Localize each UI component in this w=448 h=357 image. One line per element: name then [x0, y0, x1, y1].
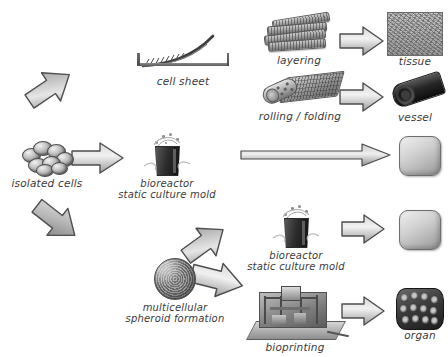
label-tissue: tissue: [335, 56, 448, 68]
label-cell-sheet: cell sheet: [103, 76, 263, 88]
node-rolling-folding: rolling / folding: [252, 70, 348, 110]
node-bioreactor-bottom: bioreactor static culture mold: [250, 204, 342, 250]
spheroid-icon: [154, 258, 196, 300]
bioprinter-icon: [251, 284, 339, 340]
node-bioprinting: bioprinting: [246, 284, 344, 340]
printer-head: [281, 286, 301, 301]
arrow-bioprinting-to-organ: [340, 294, 386, 328]
arrow-layering-to-tissue: [338, 24, 386, 58]
node-construct-mid: [398, 136, 442, 176]
node-layering: layering: [256, 14, 342, 54]
arrow-cells-to-spheroid: [26, 198, 88, 250]
diagram-canvas: isolated cells cell sheet: [0, 0, 448, 357]
label-vessel: vessel: [335, 112, 448, 124]
construct-block-icon: [399, 136, 441, 176]
arrow-cells-to-cell-sheet: [22, 62, 84, 114]
arrow-bioreactor2-to-construct: [340, 212, 386, 246]
node-tissue: tissue: [386, 12, 444, 56]
vessel-tube-body: [390, 71, 447, 110]
label-spheroid: multicellular spheroid formation: [95, 302, 255, 324]
node-vessel: vessel: [384, 70, 446, 110]
cell-cluster-icon: [20, 140, 74, 174]
culture-dish-icon: [137, 28, 229, 74]
node-cell-sheet: cell sheet: [133, 28, 233, 74]
bioreactor-flask-icon: [142, 132, 192, 178]
node-bioreactor-top: bioreactor static culture mold: [122, 132, 212, 178]
dish-wall-left: [137, 53, 140, 66]
arrow-bioreactor-to-construct: [240, 142, 392, 168]
label-bioreactor-bottom: bioreactor static culture mold: [216, 250, 376, 272]
construct-block-icon-2: [399, 210, 441, 250]
label-bioreactor-top: bioreactor static culture mold: [87, 178, 247, 200]
node-organ: organ: [390, 288, 448, 330]
bioreactor-flask-icon-2: [271, 204, 321, 250]
node-construct-lower: [398, 210, 442, 250]
organ-scaffold-icon: [396, 288, 444, 330]
vessel-lumen: [393, 83, 417, 108]
stacked-sheets-icon: [262, 14, 336, 54]
vessel-tube-icon: [386, 70, 444, 110]
tissue-swatch-icon: [387, 12, 443, 56]
node-isolated-cells: isolated cells: [12, 140, 82, 174]
label-bioprinting: bioprinting: [215, 342, 375, 354]
dish-base: [137, 63, 229, 66]
rolled-sheet-icon: [262, 70, 338, 110]
node-spheroid: multicellular spheroid formation: [120, 258, 230, 300]
label-organ: organ: [340, 330, 448, 342]
